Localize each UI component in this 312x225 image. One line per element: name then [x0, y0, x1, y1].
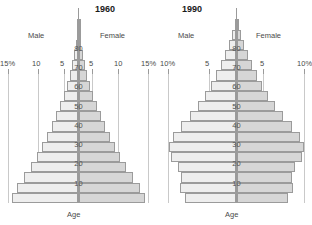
age-tick-50: 50 [67, 102, 91, 111]
age-tick-70: 70 [225, 63, 249, 72]
age-tick-30: 30 [67, 140, 91, 149]
age-tick-40: 40 [67, 121, 91, 130]
bar-male-60-64 [70, 70, 79, 80]
age-tick-40: 40 [225, 121, 249, 130]
age-tick-20: 20 [225, 159, 249, 168]
bar-male-60-64 [216, 70, 236, 80]
age-tick-80: 80 [225, 44, 249, 53]
chart-1990: 1990 Male Female 10% 5 5 10% 10203040506… [160, 0, 312, 225]
age-tick-70: 70 [67, 63, 91, 72]
bar-male-50-54 [64, 91, 79, 101]
age-caption-1960: Age [67, 210, 80, 219]
chart-1960: 1960 Male Female 15% 10 5 5 10 15% 10203… [0, 0, 160, 225]
bar-female-85+ [237, 19, 239, 29]
bar-female-0-4 [79, 193, 146, 203]
age-tick-10: 10 [225, 179, 249, 188]
population-pyramid-figure: 1960 Male Female 15% 10 5 5 10 15% 10203… [0, 0, 312, 225]
bars-1990: 1020304050607080 [160, 0, 312, 225]
bar-male-0-4 [12, 193, 79, 203]
age-tick-20: 20 [67, 159, 91, 168]
bar-female-50-54 [237, 91, 269, 101]
bar-female-0-4 [237, 193, 289, 203]
bar-male-50-54 [205, 91, 237, 101]
age-tick-50: 50 [225, 102, 249, 111]
bar-female-80-84 [237, 30, 241, 40]
bar-female-85+ [79, 19, 81, 29]
age-caption-1990: Age [225, 210, 238, 219]
bar-female-60-64 [237, 70, 257, 80]
bars-1960: 1020304050607080 [0, 0, 160, 225]
bar-male-0-4 [185, 193, 237, 203]
age-tick-10: 10 [67, 179, 91, 188]
bar-female-80-84 [79, 30, 81, 40]
bar-female-60-64 [79, 70, 88, 80]
age-tick-80: 80 [67, 44, 91, 53]
age-tick-60: 60 [225, 82, 249, 91]
age-tick-30: 30 [225, 140, 249, 149]
age-tick-60: 60 [67, 82, 91, 91]
bar-female-50-54 [79, 91, 94, 101]
